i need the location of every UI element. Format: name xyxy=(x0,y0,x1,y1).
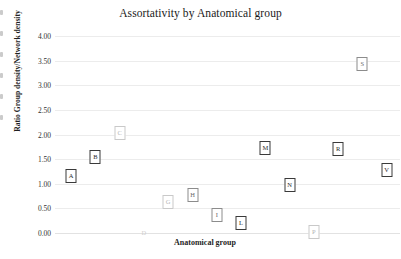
gridline xyxy=(55,61,400,62)
artifact-mark xyxy=(0,115,3,120)
gridline xyxy=(55,233,400,234)
data-point-n[interactable]: N xyxy=(284,178,295,192)
gridline xyxy=(55,110,400,111)
artifact-mark xyxy=(0,31,3,36)
y-tick-label: 1.00 xyxy=(11,180,51,189)
artifact-mark xyxy=(0,52,3,57)
data-point-b[interactable]: B xyxy=(90,150,101,164)
gridline xyxy=(55,135,400,136)
gridline xyxy=(55,184,400,185)
gridline xyxy=(55,159,400,160)
data-point-l[interactable]: L xyxy=(236,216,247,230)
y-tick-label: 2.50 xyxy=(11,106,51,115)
y-tick-label: 1.50 xyxy=(11,155,51,164)
y-tick-label: 4.00 xyxy=(11,32,51,41)
y-axis-label: Ratio Group density/Network density xyxy=(11,0,25,146)
data-point-p[interactable]: P xyxy=(308,225,319,239)
gridline xyxy=(55,36,400,37)
gridline xyxy=(55,208,400,209)
y-tick-label: 0.50 xyxy=(11,204,51,213)
data-point-i[interactable]: I xyxy=(211,208,222,222)
cropped-edge-artifact xyxy=(0,10,5,120)
y-tick-label: 3.00 xyxy=(11,81,51,90)
data-point-a[interactable]: A xyxy=(66,169,77,183)
chart-container: Assortativity by Anatomical group Ratio … xyxy=(0,0,401,259)
data-point-g[interactable]: G xyxy=(163,195,174,209)
data-point-c[interactable]: C xyxy=(114,126,125,140)
data-point-v[interactable]: V xyxy=(381,163,392,177)
plot-area: 4.003.503.002.502.001.501.000.500.00 ABC… xyxy=(55,36,400,233)
x-axis-label: Anatomical group xyxy=(55,238,355,247)
gridline xyxy=(55,85,400,86)
data-point-h[interactable]: H xyxy=(187,188,198,202)
y-tick-label: 3.50 xyxy=(11,57,51,66)
artifact-mark xyxy=(0,94,3,99)
data-point-m[interactable]: M xyxy=(260,141,271,155)
chart-title: Assortativity by Anatomical group xyxy=(0,7,401,19)
data-point-s[interactable]: S xyxy=(357,57,368,71)
artifact-mark xyxy=(0,73,3,78)
y-tick-label: 2.00 xyxy=(11,131,51,140)
data-point-r[interactable]: R xyxy=(333,142,344,156)
y-tick-label: 0.00 xyxy=(11,229,51,238)
